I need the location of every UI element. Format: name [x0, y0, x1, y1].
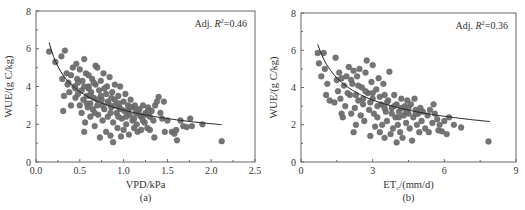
x-tick-label: 0.5: [74, 165, 87, 176]
data-point: [396, 114, 402, 120]
data-point: [108, 133, 114, 139]
data-point: [345, 90, 351, 96]
data-point: [357, 66, 363, 72]
data-point: [441, 118, 447, 124]
data-point: [338, 96, 344, 102]
data-point: [364, 58, 370, 64]
data-point: [81, 84, 87, 90]
data-point: [355, 83, 361, 89]
data-point: [159, 116, 165, 122]
figure: 024680.00.51.01.52.02.5Adj. R2=0.46WUE/(…: [0, 0, 525, 210]
data-point: [189, 123, 195, 129]
r-squared-annotation: Adj. R2=0.36: [456, 19, 509, 31]
data-point: [158, 110, 164, 116]
data-point: [486, 139, 492, 145]
data-point: [140, 118, 146, 124]
data-point: [403, 120, 409, 126]
data-point: [96, 87, 102, 93]
data-point: [361, 118, 367, 124]
data-point: [60, 108, 66, 114]
data-point: [382, 105, 388, 111]
data-point: [322, 66, 328, 72]
data-point: [121, 127, 127, 133]
data-point: [101, 86, 107, 92]
data-point: [151, 118, 157, 124]
data-point: [316, 60, 322, 66]
x-tick-label: 2.5: [249, 165, 262, 176]
data-point: [117, 84, 123, 90]
data-point: [372, 124, 378, 130]
panel-label: (a): [140, 192, 152, 204]
y-axis-label: WUE/(g C/kg): [268, 56, 280, 119]
x-axis-label: ETc/(mm/d): [383, 179, 434, 192]
data-point: [128, 104, 134, 110]
data-point: [94, 65, 100, 71]
data-point: [101, 70, 107, 76]
data-point: [342, 103, 348, 109]
y-tick-label: 2: [26, 119, 31, 130]
data-point: [358, 113, 364, 119]
data-point: [348, 111, 354, 117]
x-tick-label: 1.5: [161, 165, 174, 176]
data-point: [389, 111, 395, 117]
data-point: [123, 91, 129, 97]
data-point: [384, 118, 390, 124]
data-point: [427, 107, 433, 113]
data-point: [346, 64, 352, 70]
y-tick-label: 6: [291, 45, 296, 56]
data-point: [353, 122, 359, 128]
annotation-prefix: Adj.: [195, 18, 215, 29]
data-point: [363, 88, 369, 94]
data-point: [375, 103, 381, 109]
data-point: [73, 61, 79, 67]
data-point: [416, 129, 422, 135]
data-point: [360, 101, 366, 107]
y-tick-label: 8: [26, 6, 31, 17]
data-point: [68, 103, 74, 109]
data-point: [138, 127, 144, 133]
data-point: [140, 103, 146, 109]
data-point: [151, 135, 157, 141]
data-point: [335, 88, 341, 94]
axis-ticks: [301, 13, 516, 162]
data-point: [92, 110, 98, 116]
data-point: [412, 96, 418, 102]
data-point: [107, 74, 113, 80]
data-point: [451, 122, 457, 128]
data-point: [318, 73, 324, 79]
data-point: [61, 93, 67, 99]
data-point: [348, 77, 354, 83]
data-point: [162, 129, 168, 135]
data-point: [382, 135, 388, 141]
data-point: [407, 126, 413, 132]
data-point: [98, 78, 104, 84]
data-point: [59, 53, 65, 59]
data-point: [66, 89, 72, 95]
data-point: [92, 123, 98, 129]
data-point: [128, 97, 134, 103]
data-point: [131, 116, 137, 122]
data-point: [134, 121, 140, 127]
data-point: [115, 125, 121, 131]
y-tick-label: 4: [26, 81, 31, 92]
data-point: [100, 118, 106, 124]
y-tick-label: 6: [26, 43, 31, 54]
data-point: [81, 56, 87, 62]
annotation-value: =0.46: [224, 18, 247, 29]
y-tick-label: 0: [291, 157, 296, 168]
data-point: [91, 80, 97, 86]
x-tick-label: 1.0: [117, 165, 130, 176]
data-point: [109, 89, 115, 95]
data-point: [434, 116, 440, 122]
data-point: [118, 134, 124, 140]
data-point: [363, 70, 369, 76]
data-point: [336, 70, 342, 76]
x-tick-label: 6: [442, 165, 447, 176]
data-point: [84, 101, 90, 107]
data-point: [377, 94, 383, 100]
data-point: [123, 121, 129, 127]
annotation-prefix: Adj.: [456, 20, 476, 31]
data-point: [390, 126, 396, 132]
data-point: [173, 127, 179, 133]
data-point: [381, 81, 387, 87]
